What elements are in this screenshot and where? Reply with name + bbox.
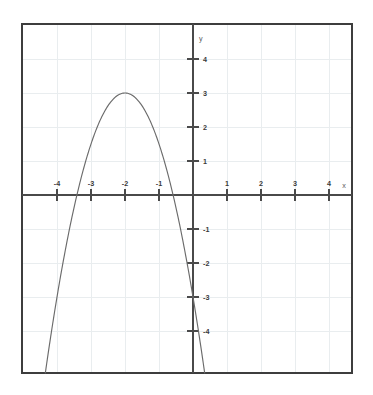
x-tick-label--2: -2 bbox=[122, 179, 128, 188]
y-tick-label--4: -4 bbox=[203, 327, 209, 336]
y-tick-label--1: -1 bbox=[203, 225, 209, 234]
x-tick-label-4: 4 bbox=[327, 179, 331, 188]
x-tick-label-3: 3 bbox=[293, 179, 297, 188]
plot-background bbox=[22, 24, 352, 373]
x-tick-label--3: -3 bbox=[88, 179, 94, 188]
y-tick-label--2: -2 bbox=[203, 259, 209, 268]
y-tick-label-2: 2 bbox=[203, 123, 207, 132]
y-axis-label: y bbox=[199, 34, 203, 43]
x-tick-label-2: 2 bbox=[259, 179, 263, 188]
coordinate-plane-svg: -4 -3 -2 -1 1 2 3 4 4 3 2 1 -1 -2 -3 -4 … bbox=[0, 0, 373, 395]
y-tick-label--3: -3 bbox=[203, 293, 209, 302]
y-tick-label-3: 3 bbox=[203, 89, 207, 98]
x-tick-label--1: -1 bbox=[156, 179, 162, 188]
x-tick-label-1: 1 bbox=[225, 179, 229, 188]
graph-figure: -4 -3 -2 -1 1 2 3 4 4 3 2 1 -1 -2 -3 -4 … bbox=[0, 0, 373, 395]
y-tick-label-1: 1 bbox=[203, 157, 207, 166]
x-axis-label: x bbox=[342, 181, 346, 190]
y-tick-label-4: 4 bbox=[203, 55, 207, 64]
x-tick-label--4: -4 bbox=[54, 179, 60, 188]
